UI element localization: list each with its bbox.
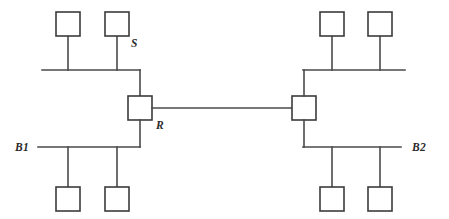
host-box-left-bottom-2 [105,187,129,211]
host-box-right-bottom-1 [320,187,344,211]
label-sender: S [131,37,138,49]
host-box-left-top-1 [56,12,80,36]
topology-svg: S R B1 B2 [0,0,449,219]
host-box-right-top-2 [368,12,392,36]
host-box-sender [105,12,129,36]
router-box-right [292,96,316,120]
host-box-right-top-1 [320,12,344,36]
label-bus-right: B2 [411,141,426,153]
host-box-left-bottom-1 [56,187,80,211]
label-bus-left: B1 [14,141,29,153]
router-box-left [128,96,152,120]
label-router: R [155,119,164,131]
network-diagram: S R B1 B2 [0,0,449,219]
host-box-right-bottom-2 [368,187,392,211]
